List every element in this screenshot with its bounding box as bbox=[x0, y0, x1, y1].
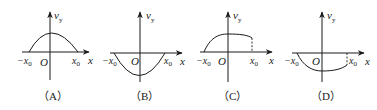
origin-label: O bbox=[312, 55, 320, 67]
neg-x0-label: −x0 bbox=[17, 55, 32, 68]
y-axis-label: vy bbox=[146, 9, 155, 24]
panel-caption: （A） bbox=[38, 90, 68, 102]
neg-x0-label: −x0 bbox=[102, 55, 117, 68]
panel-d: vy −x0 O x0 x （D） bbox=[284, 9, 370, 102]
x-axis-label: x bbox=[268, 54, 274, 66]
pos-x0-label: x0 bbox=[71, 55, 80, 68]
panel-caption: （D） bbox=[311, 90, 341, 102]
origin-label: O bbox=[40, 56, 48, 68]
x-axis-label: x bbox=[364, 55, 370, 67]
panel-a: vy −x0 O x0 x （A） bbox=[17, 9, 93, 102]
panel-b: vy −x0 O x0 x （B） bbox=[102, 9, 185, 102]
vy-curve bbox=[29, 33, 78, 52]
origin-label: O bbox=[218, 55, 226, 67]
panel-c: vy −x0 O x0 x （C） bbox=[196, 9, 274, 102]
neg-x0-label: −x0 bbox=[196, 55, 211, 68]
panel-caption: （B） bbox=[130, 90, 159, 102]
figure-canvas: vy −x0 O x0 x （A） vy −x0 O x0 x （B） vy −… bbox=[0, 0, 377, 110]
y-axis-label: vy bbox=[54, 9, 63, 24]
neg-x0-label: −x0 bbox=[284, 55, 299, 68]
y-axis-label: vy bbox=[327, 9, 336, 24]
y-axis-label: vy bbox=[233, 9, 242, 24]
pos-x0-label: x0 bbox=[249, 55, 258, 68]
pos-x0-label: x0 bbox=[348, 55, 357, 68]
panel-caption: （C） bbox=[218, 90, 247, 102]
x-axis-label: x bbox=[179, 55, 185, 67]
origin-label: O bbox=[131, 55, 139, 67]
x-axis-label: x bbox=[87, 54, 93, 66]
pos-x0-label: x0 bbox=[163, 55, 172, 68]
